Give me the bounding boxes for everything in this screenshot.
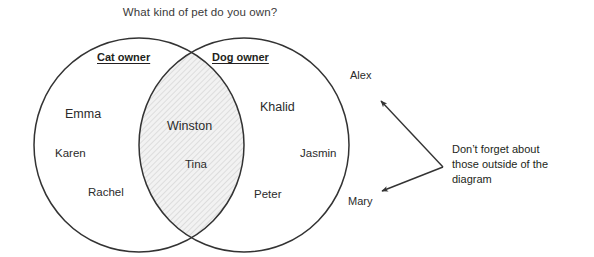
venn-diagram-graphic — [0, 0, 594, 257]
member-left-karen: Karen — [55, 147, 86, 159]
annotation-line-2: those outside of the — [452, 157, 584, 172]
member-left-emma: Emma — [65, 107, 101, 121]
annotation-line-1: Don’t forget about — [452, 142, 584, 157]
member-right-jasmin: Jasmin — [300, 147, 336, 159]
annotation-arrow-to-alex — [381, 101, 443, 167]
venn-diagram-page: What kind of pet do you own? Cat owner D… — [0, 0, 594, 257]
member-outside-mary: Mary — [348, 195, 372, 207]
annotation-arrow-to-mary — [382, 167, 443, 191]
member-right-khalid: Khalid — [260, 100, 295, 114]
member-both-winston: Winston — [167, 119, 212, 133]
annotation-note: Don’t forget about those outside of the … — [452, 142, 584, 187]
set-label-cat-owner: Cat owner — [97, 51, 150, 63]
member-outside-alex: Alex — [350, 69, 371, 81]
member-both-tina: Tina — [185, 158, 207, 170]
set-label-dog-owner: Dog owner — [212, 51, 269, 63]
annotation-line-3: diagram — [452, 172, 584, 187]
member-right-peter: Peter — [254, 188, 282, 200]
member-left-rachel: Rachel — [88, 186, 124, 198]
